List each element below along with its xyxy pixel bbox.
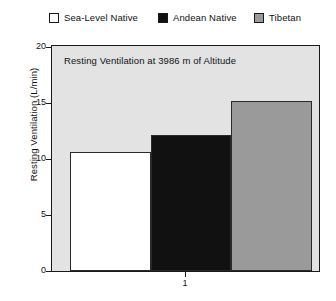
legend-item-andean-native: Andean Native bbox=[158, 13, 237, 23]
x-axis-tick-label: 1 bbox=[165, 279, 205, 288]
plot-inner: Resting Ventilation at 3986 m of Altitud… bbox=[52, 46, 319, 271]
x-axis-tick-mark bbox=[185, 272, 186, 277]
legend-swatch-icon bbox=[254, 13, 264, 23]
bar-sea-level-native bbox=[70, 152, 151, 271]
y-axis-tick-label: 20 bbox=[24, 42, 46, 51]
y-axis-tick-label: 0 bbox=[24, 266, 46, 275]
y-axis-tick-label: 5 bbox=[24, 210, 46, 219]
y-axis-ticks: 05101520 bbox=[20, 0, 46, 301]
legend-label: Andean Native bbox=[173, 13, 237, 23]
legend-swatch-icon bbox=[158, 13, 168, 23]
bar-chart-figure: Sea-Level Native Andean Native Tibetan R… bbox=[0, 0, 336, 301]
legend-item-tibetan: Tibetan bbox=[254, 13, 301, 23]
legend-swatch-icon bbox=[49, 13, 59, 23]
legend-label: Sea-Level Native bbox=[64, 13, 138, 23]
legend-item-sea-level-native: Sea-Level Native bbox=[49, 13, 138, 23]
y-axis-tick-label: 10 bbox=[24, 154, 46, 163]
bar-tibetan bbox=[231, 101, 312, 271]
chart-legend: Sea-Level Native Andean Native Tibetan bbox=[0, 10, 336, 32]
chart-title: Resting Ventilation at 3986 m of Altitud… bbox=[64, 55, 236, 66]
plot-area: Resting Ventilation at 3986 m of Altitud… bbox=[51, 45, 320, 272]
legend-label: Tibetan bbox=[269, 13, 301, 23]
y-axis-tick-label: 15 bbox=[24, 98, 46, 107]
bar-andean-native bbox=[151, 135, 232, 271]
